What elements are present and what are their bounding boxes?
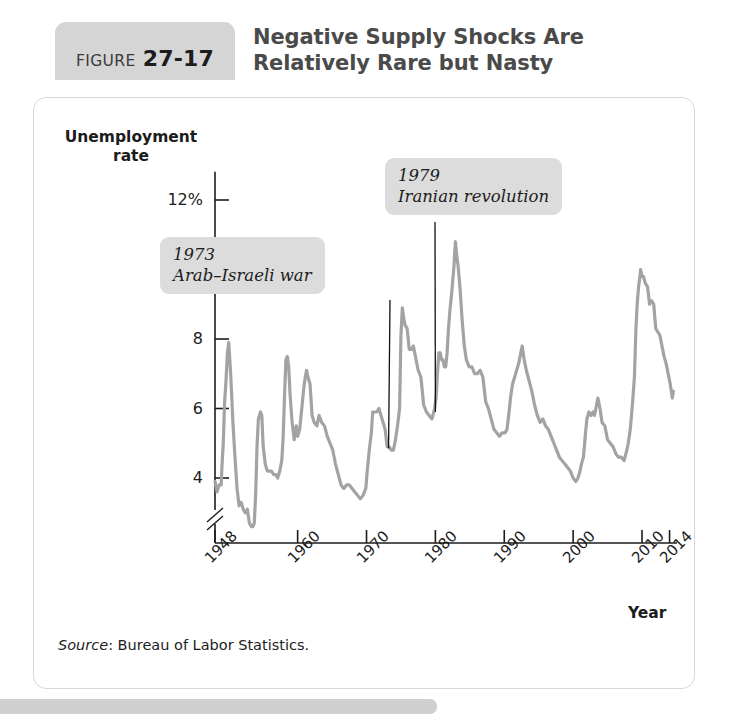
annotation-1973-event: Arab–Israeli war: [173, 265, 312, 286]
y-axis-title: Unemployment rate: [62, 128, 200, 166]
figure-title: Negative Supply Shocks Are Relatively Ra…: [253, 24, 673, 76]
figure-word-label: FIGURE: [76, 52, 136, 70]
y-axis-title-line-2: rate: [62, 147, 200, 166]
figure-number-label: 27-17: [143, 46, 214, 71]
bottom-decoration-band: [0, 699, 437, 714]
figure-badge-inner: FIGURE27-17: [55, 46, 235, 71]
x-axis-title: Year: [628, 604, 666, 622]
figure-number-badge: FIGURE27-17: [55, 22, 235, 80]
annotation-1979-event: Iranian revolution: [398, 186, 549, 207]
y-axis-title-line-1: Unemployment: [62, 128, 200, 147]
figure-card: [33, 97, 695, 689]
annotation-callout-1979: 1979 Iranian revolution: [385, 158, 562, 215]
source-label: Source: [58, 637, 108, 653]
source-note: Source: Bureau of Labor Statistics.: [58, 637, 309, 653]
figure-title-line-1: Negative Supply Shocks Are: [253, 24, 673, 50]
annotation-1979-year: 1979: [398, 165, 549, 186]
annotation-1973-year: 1973: [173, 244, 312, 265]
y-tick-label-8: 8: [149, 329, 203, 348]
figure-title-line-2: Relatively Rare but Nasty: [253, 50, 673, 76]
y-tick-label-4: 4: [149, 468, 203, 487]
y-tick-label-6: 6: [149, 399, 203, 418]
y-tick-label-12: 12%: [149, 190, 203, 209]
annotation-callout-1973: 1973 Arab–Israeli war: [160, 237, 325, 294]
source-text: : Bureau of Labor Statistics.: [108, 637, 309, 653]
